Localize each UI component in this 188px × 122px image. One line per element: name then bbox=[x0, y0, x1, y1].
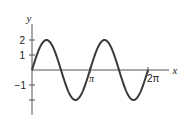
x-tick-label-pi: π bbox=[89, 73, 95, 84]
y-axis-label: y bbox=[26, 12, 32, 24]
x-axis-label: x bbox=[172, 64, 178, 76]
sine-chart: y x 2 1 −1 π 2π bbox=[0, 0, 188, 122]
y-tick-label-2: 2 bbox=[19, 35, 25, 46]
x-tick-label-2pi: 2π bbox=[147, 73, 160, 84]
y-tick-label-1: 1 bbox=[19, 50, 25, 61]
y-tick-label-minus1: −1 bbox=[15, 80, 27, 91]
